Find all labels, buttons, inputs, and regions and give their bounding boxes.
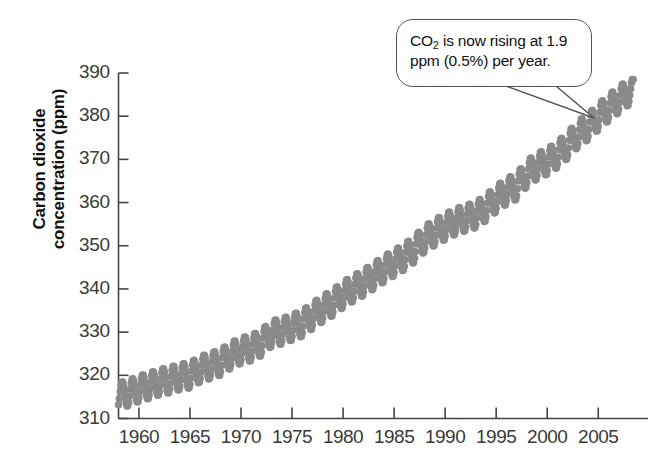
data-point (564, 151, 572, 159)
callout-line2: ppm (0.5%) per year. (410, 52, 551, 69)
y-axis-tick-label: 370 (62, 147, 110, 169)
data-point (360, 288, 368, 296)
data-point (523, 179, 531, 187)
data-point (390, 268, 398, 276)
data-point (217, 368, 225, 376)
y-axis-tick-label: 360 (62, 191, 110, 213)
data-point (555, 153, 563, 161)
data-point (330, 302, 338, 310)
data-point (606, 107, 614, 115)
data-point (412, 248, 420, 256)
y-axis-tick-label: 380 (62, 104, 110, 126)
co2-concentration-chart: Carbon dioxide concentration (ppm) 31032… (0, 0, 665, 472)
data-point (483, 207, 491, 215)
data-point (574, 140, 582, 148)
x-axis-tick-label: 1980 (315, 426, 371, 448)
annotation-callout: CO2 is now rising at 1.9 ppm (0.5%) per … (396, 19, 592, 87)
data-point (493, 198, 501, 206)
data-point (258, 348, 266, 356)
data-point (298, 329, 306, 337)
x-axis-tick-label: 1965 (162, 426, 218, 448)
y-axis-tick-label: 390 (62, 61, 110, 83)
data-point (514, 185, 522, 193)
x-axis-tick-label: 1990 (417, 426, 473, 448)
x-axis-tick-label: 1985 (366, 426, 422, 448)
data-point (339, 300, 347, 308)
data-point (370, 281, 378, 289)
data-point (595, 116, 603, 124)
data-point (629, 76, 637, 84)
data-point (615, 105, 623, 113)
y-axis-tick-label: 330 (62, 320, 110, 342)
data-point (585, 126, 593, 134)
y-axis-title-line1: Carbon dioxide (30, 44, 49, 294)
callout-subscript-2: 2 (433, 39, 439, 51)
y-axis-tick-label: 310 (62, 407, 110, 429)
data-point (626, 92, 634, 100)
data-point (543, 167, 551, 175)
x-axis-tick-label: 2000 (519, 426, 575, 448)
data-point (319, 314, 327, 322)
y-axis-tick-label: 340 (62, 277, 110, 299)
data-point (595, 122, 603, 129)
data-point (605, 113, 613, 121)
data-point (329, 308, 337, 316)
x-axis-tick-label: 1970 (213, 426, 269, 448)
callout-line1-rest: is now rising at 1.9 (439, 32, 567, 49)
data-point (309, 321, 317, 329)
data-point (584, 132, 592, 140)
x-axis-ticks (139, 408, 598, 419)
y-axis-ticks (119, 73, 129, 419)
x-axis-tick-label: 1960 (111, 426, 167, 448)
data-point (380, 274, 388, 282)
x-axis-tick-label: 1975 (264, 426, 320, 448)
data-point (259, 342, 267, 350)
data-point (565, 144, 573, 152)
data-point (421, 244, 429, 252)
callout-co-text: CO (410, 32, 433, 49)
data-point (616, 99, 624, 107)
data-point (401, 256, 409, 264)
x-axis-tick-label: 1995 (468, 426, 524, 448)
annotation-callout-text: CO2 is now rising at 1.9 ppm (0.5%) per … (410, 31, 579, 71)
data-point (554, 160, 562, 168)
y-axis-tick-label: 320 (62, 363, 110, 385)
data-point (401, 262, 409, 270)
data-point (350, 294, 358, 302)
data-point (299, 322, 307, 330)
y-axis-tick-label: 350 (62, 234, 110, 256)
data-point (472, 221, 480, 229)
x-axis-tick-label: 2005 (570, 426, 626, 448)
data-series-markers (115, 76, 637, 410)
callout-pointer-tail (506, 86, 594, 118)
data-point (186, 381, 194, 389)
data-point (492, 205, 500, 213)
data-point (411, 255, 419, 263)
data-point (482, 213, 490, 221)
data-point (513, 192, 521, 200)
